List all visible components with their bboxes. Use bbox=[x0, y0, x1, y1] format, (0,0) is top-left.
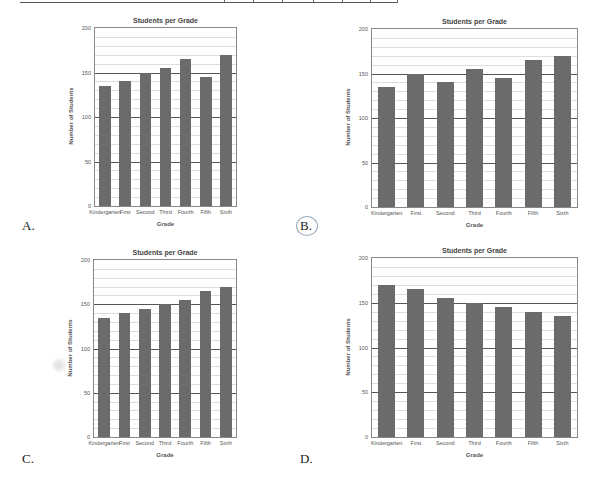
bar bbox=[554, 56, 571, 207]
table-divider bbox=[397, 0, 398, 3]
y-tick-label: 100 bbox=[354, 115, 368, 121]
bar bbox=[466, 69, 483, 207]
table-divider bbox=[313, 0, 314, 3]
y-tick-label: 150 bbox=[354, 71, 368, 77]
minor-gridline bbox=[372, 65, 577, 66]
bar bbox=[179, 300, 191, 437]
bar bbox=[407, 74, 424, 208]
y-tick-label: 50 bbox=[354, 160, 368, 166]
bar bbox=[220, 287, 232, 437]
x-axis-label: Grade bbox=[371, 452, 578, 458]
bar bbox=[159, 304, 171, 437]
bar bbox=[220, 55, 232, 206]
table-divider bbox=[253, 0, 254, 3]
minor-gridline bbox=[372, 47, 577, 48]
y-tick-label: 200 bbox=[77, 25, 91, 31]
option-label-c: C. bbox=[22, 451, 34, 467]
x-tick-label: Sixth bbox=[206, 209, 246, 215]
option-label-a: A. bbox=[22, 218, 35, 234]
y-tick-label: 0 bbox=[354, 204, 368, 210]
bar bbox=[98, 318, 110, 437]
minor-gridline bbox=[95, 46, 236, 47]
y-tick-label: 150 bbox=[77, 70, 91, 76]
bar bbox=[160, 68, 172, 206]
table-divider bbox=[342, 0, 343, 3]
bar bbox=[378, 285, 395, 437]
bar bbox=[437, 82, 454, 207]
bar bbox=[119, 313, 131, 437]
minor-gridline bbox=[372, 56, 577, 57]
chart-title: Students per Grade bbox=[93, 249, 237, 256]
bar bbox=[554, 316, 571, 437]
y-tick-label: 0 bbox=[76, 434, 90, 440]
bar bbox=[525, 60, 542, 207]
bar bbox=[200, 291, 212, 437]
minor-gridline bbox=[94, 269, 236, 270]
plot-area bbox=[371, 257, 578, 438]
bar bbox=[119, 81, 131, 206]
y-axis-label: Number of Students bbox=[345, 312, 351, 382]
bar bbox=[407, 289, 424, 437]
y-tick-label: 100 bbox=[354, 345, 368, 351]
y-axis-label: Number of Students bbox=[345, 82, 351, 152]
y-tick-label: 50 bbox=[77, 159, 91, 165]
y-tick-label: 0 bbox=[77, 203, 91, 209]
y-axis-label: Number of Students bbox=[68, 81, 74, 151]
bar bbox=[378, 87, 395, 207]
y-axis-label: Number of Students bbox=[67, 313, 73, 383]
plot-area bbox=[94, 27, 237, 207]
y-tick-label: 200 bbox=[354, 26, 368, 32]
minor-gridline bbox=[372, 285, 577, 286]
y-tick-label: 100 bbox=[76, 346, 90, 352]
minor-gridline bbox=[372, 294, 577, 295]
y-tick-label: 50 bbox=[76, 390, 90, 396]
minor-gridline bbox=[372, 267, 577, 268]
bar bbox=[495, 307, 512, 437]
y-tick-label: 200 bbox=[354, 255, 368, 261]
chart-title: Students per Grade bbox=[371, 247, 578, 254]
table-divider bbox=[224, 0, 225, 3]
minor-gridline bbox=[372, 276, 577, 277]
y-tick-label: 200 bbox=[76, 257, 90, 263]
bar bbox=[495, 78, 512, 207]
plot-area bbox=[371, 28, 578, 208]
y-tick-label: 150 bbox=[76, 301, 90, 307]
x-tick-label: Sixth bbox=[542, 210, 582, 216]
bar bbox=[99, 86, 111, 206]
plot-area bbox=[93, 259, 237, 438]
y-tick-label: 100 bbox=[77, 114, 91, 120]
y-tick-label: 50 bbox=[354, 389, 368, 395]
minor-gridline bbox=[95, 55, 236, 56]
bar bbox=[525, 312, 542, 437]
minor-gridline bbox=[95, 37, 236, 38]
pencil-smudge bbox=[52, 355, 66, 375]
minor-gridline bbox=[94, 278, 236, 279]
minor-gridline bbox=[94, 287, 236, 288]
chart-title: Students per Grade bbox=[371, 18, 578, 25]
table-divider bbox=[370, 0, 371, 3]
bar bbox=[437, 298, 454, 437]
bar bbox=[140, 73, 152, 207]
bar bbox=[139, 309, 151, 437]
bar bbox=[180, 59, 192, 206]
table-divider bbox=[282, 0, 283, 3]
x-axis-label: Grade bbox=[94, 221, 237, 227]
x-tick-label: Sixth bbox=[542, 440, 582, 446]
circled-answer-mark bbox=[296, 216, 318, 236]
y-tick-label: 0 bbox=[354, 434, 368, 440]
y-tick-label: 150 bbox=[354, 300, 368, 306]
bar bbox=[466, 303, 483, 437]
chart-title: Students per Grade bbox=[94, 17, 237, 24]
minor-gridline bbox=[372, 38, 577, 39]
option-label-d: D. bbox=[300, 451, 313, 467]
x-axis-label: Grade bbox=[93, 452, 237, 458]
bar bbox=[200, 77, 212, 206]
x-tick-label: Sixth bbox=[206, 440, 246, 446]
minor-gridline bbox=[94, 295, 236, 296]
x-axis-label: Grade bbox=[371, 222, 578, 228]
minor-gridline bbox=[95, 64, 236, 65]
